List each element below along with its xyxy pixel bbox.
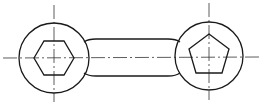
horizontal-centerline (3, 57, 262, 58)
bar-top-edge (84, 39, 180, 42)
bar-bottom-edge (84, 73, 180, 76)
technical-drawing (0, 0, 264, 108)
